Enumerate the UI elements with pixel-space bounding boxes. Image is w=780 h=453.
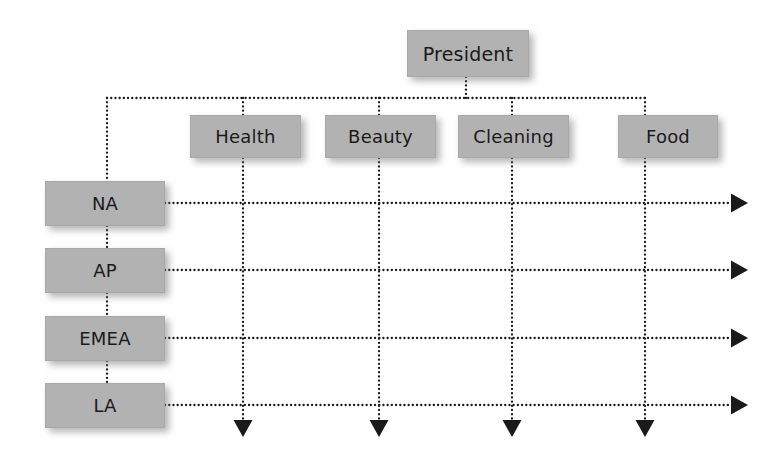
- matrix-org-chart: President HealthBeautyCleaningFood NAAPE…: [0, 0, 780, 453]
- arrow-down-cleaning: [503, 420, 522, 437]
- node-region-na[interactable]: NA: [45, 181, 165, 226]
- node-region-emea[interactable]: EMEA: [45, 316, 165, 361]
- arrow-down-food: [636, 420, 655, 437]
- node-function-beauty[interactable]: Beauty: [325, 115, 436, 158]
- node-region-ap[interactable]: AP: [45, 248, 165, 293]
- node-function-health[interactable]: Health: [190, 115, 301, 158]
- arrow-right-la: [731, 396, 748, 415]
- arrow-right-ap: [731, 261, 748, 280]
- arrow-right-emea: [731, 329, 748, 348]
- node-region-la[interactable]: LA: [45, 383, 165, 428]
- arrow-right-na: [731, 194, 748, 213]
- node-function-food[interactable]: Food: [618, 115, 718, 158]
- node-president[interactable]: President: [407, 30, 529, 77]
- arrow-down-beauty: [370, 420, 389, 437]
- node-function-cleaning[interactable]: Cleaning: [458, 115, 569, 158]
- arrow-down-health: [234, 420, 253, 437]
